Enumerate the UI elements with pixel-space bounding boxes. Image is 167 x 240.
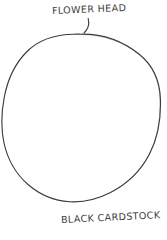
flower-head-leader-line (84, 19, 89, 33)
cardstock-circle-shape (2, 34, 161, 202)
cardstock-circle-pencil-overstroke (82, 35, 161, 193)
sketch-drawing-canvas (0, 0, 167, 240)
sketch-page: FLOWER HEAD BLACK CARDSTOCK (0, 0, 167, 240)
